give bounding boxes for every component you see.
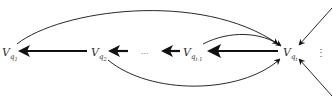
svg-text:Vq2: Vq2 [91,46,107,62]
edge-n1-to-n4-arc [17,11,278,44]
vertical-ellipsis: ⋮ [316,47,326,58]
svg-text:Vqt-1: Vqt-1 [183,46,202,62]
edge-external-bottom-to-n4 [299,59,332,96]
edge-external-top-to-n4 [299,8,332,45]
svg-text:Vq1: Vq1 [2,46,18,62]
edge-n2-to-n4-arc [108,59,280,86]
svg-text:Vqt: Vqt [283,46,298,62]
node-n3: Vqt-1 [183,46,202,62]
edge-n3-to-n4-arc [203,34,281,46]
node-n4: Vqt [283,46,298,62]
horizontal-ellipsis: ... [141,47,149,56]
diagram-canvas: Vq1 Vq2 Vqt-1 Vqt ... ⋮ [0,0,333,98]
node-n2: Vq2 [91,46,107,62]
node-n1: Vq1 [2,46,18,62]
